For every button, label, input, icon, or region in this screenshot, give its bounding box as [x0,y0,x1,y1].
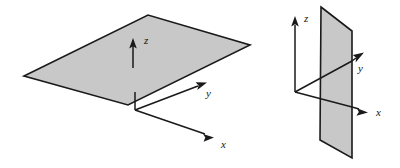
vertical-plane-shape [320,7,352,158]
coordinate-planes-figure: z y x z [0,0,400,168]
x-axis-label: x [375,106,381,118]
x-axis-arrowhead [203,134,214,142]
z-axis-label: z [143,34,149,46]
z-axis-arrowhead [291,16,299,27]
horizontal-plane-shape [24,15,250,105]
figure-container: z y x z [0,0,400,168]
horizontal-panel-x-axis: x [135,110,226,150]
vertical-panel-z-axis: z [291,12,309,92]
horizontal-plane-panel: z y x [24,15,250,150]
z-axis-label: z [303,12,309,24]
y-axis-label: y [357,62,363,74]
x-axis-label: x [220,138,226,150]
y-axis-label: y [205,87,211,99]
x-axis-arrowhead [356,108,368,116]
y-axis-arrowhead [353,52,364,62]
vertical-plane-panel: z y x [291,7,381,158]
